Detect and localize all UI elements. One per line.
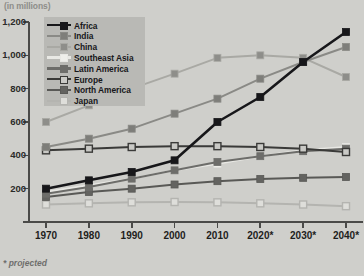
data-point	[85, 200, 92, 207]
data-point	[300, 174, 307, 181]
x-tick	[88, 222, 90, 228]
x-tick	[259, 222, 261, 228]
data-point	[43, 119, 50, 126]
data-point	[343, 74, 350, 81]
data-point	[257, 153, 264, 160]
legend-marker	[60, 22, 68, 30]
chart-legend: AfricaIndiaChinaSoutheast AsiaLatin Amer…	[44, 17, 145, 106]
x-tick	[345, 222, 347, 228]
x-tick	[174, 222, 176, 228]
legend-item-india[interactable]: India	[47, 31, 93, 42]
data-point	[343, 44, 350, 51]
legend-marker	[60, 32, 68, 40]
y-tick-label: 1,200	[0, 16, 26, 27]
legend-swatch-icon	[47, 32, 71, 41]
series-japan	[43, 199, 350, 210]
legend-item-china[interactable]: China	[47, 42, 97, 53]
legend-label: China	[74, 42, 97, 52]
data-point	[128, 125, 135, 132]
data-point	[214, 143, 221, 150]
y-tick-label: 600	[0, 116, 26, 127]
legend-swatch-icon	[47, 43, 71, 52]
y-tick-label: 200	[0, 183, 26, 194]
legend-item-europe[interactable]: Europe	[47, 74, 103, 85]
data-point	[257, 52, 264, 59]
y-tick-label: 800	[0, 83, 26, 94]
legend-marker	[60, 97, 68, 105]
data-point	[343, 149, 350, 156]
legend-label: North America	[74, 85, 131, 95]
legend-marker	[60, 86, 68, 94]
x-tick-label: 2030*	[280, 230, 326, 241]
data-point	[85, 145, 92, 152]
data-point	[43, 144, 50, 151]
data-point	[257, 94, 264, 101]
legend-label: Southeast Asia	[74, 53, 134, 63]
y-tick-label: 1,000	[0, 49, 26, 60]
legend-swatch-icon	[47, 75, 71, 84]
data-point	[171, 143, 178, 150]
legend-swatch-icon	[47, 53, 71, 62]
legend-item-africa[interactable]: Africa	[47, 20, 97, 31]
chart-root: (in millions) 2004006008001,0001,200 197…	[0, 0, 364, 276]
data-point	[171, 157, 178, 164]
data-point	[128, 175, 135, 182]
data-point	[214, 119, 221, 126]
x-tick-label: 2040*	[323, 230, 364, 241]
data-point	[128, 169, 135, 176]
legend-marker	[60, 65, 68, 73]
data-point	[300, 145, 307, 152]
data-point	[128, 144, 135, 151]
data-point	[214, 159, 221, 166]
legend-item-north-america[interactable]: North America	[47, 85, 131, 96]
legend-item-southeast-asia[interactable]: Southeast Asia	[47, 52, 134, 63]
x-tick-label: 1980	[66, 230, 112, 241]
data-point	[300, 201, 307, 208]
x-tick-label: 2000	[152, 230, 198, 241]
legend-marker	[60, 43, 68, 51]
legend-item-latin-america[interactable]: Latin America	[47, 63, 128, 74]
data-point	[43, 201, 50, 208]
x-tick-label: 2020*	[237, 230, 283, 241]
x-tick	[217, 222, 219, 228]
legend-marker	[60, 54, 68, 62]
data-point	[257, 144, 264, 151]
y-tick-label: 400	[0, 149, 26, 160]
legend-label: Europe	[74, 75, 103, 85]
data-point	[171, 167, 178, 174]
data-point	[85, 184, 92, 191]
x-tick-label: 1990	[109, 230, 155, 241]
data-point	[343, 174, 350, 181]
legend-label: Japan	[74, 96, 98, 106]
data-point	[128, 185, 135, 192]
data-point	[171, 70, 178, 77]
legend-item-japan[interactable]: Japan	[47, 96, 98, 107]
x-tick	[131, 222, 133, 228]
data-point	[128, 199, 135, 206]
data-point	[257, 200, 264, 207]
x-tick-label: 2010	[194, 230, 240, 241]
data-point	[171, 199, 178, 206]
data-point	[343, 203, 350, 210]
x-tick	[302, 222, 304, 228]
legend-swatch-icon	[47, 97, 71, 106]
x-tick-label: 1970	[23, 230, 69, 241]
data-point	[43, 185, 50, 192]
legend-swatch-icon	[47, 64, 71, 73]
data-point	[214, 199, 221, 206]
legend-swatch-icon	[47, 21, 71, 30]
legend-label: Latin America	[74, 64, 128, 74]
data-point	[171, 181, 178, 188]
data-point	[85, 177, 92, 184]
data-point	[214, 54, 221, 61]
legend-marker	[60, 76, 68, 84]
x-tick	[45, 222, 47, 228]
legend-swatch-icon	[47, 86, 71, 95]
legend-label: Africa	[74, 21, 97, 31]
data-point	[85, 135, 92, 142]
legend-label: India	[74, 31, 93, 41]
data-point	[343, 29, 350, 36]
data-point	[214, 178, 221, 185]
data-point	[300, 59, 307, 66]
data-point	[257, 75, 264, 82]
